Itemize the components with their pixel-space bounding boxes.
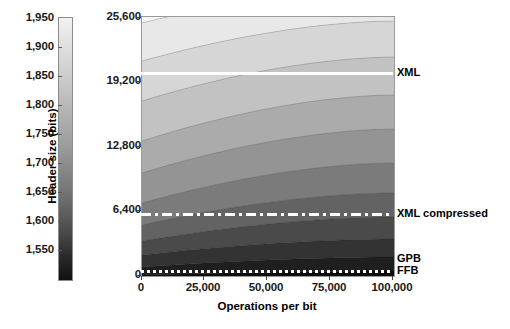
x-axis-tick-label: 0	[106, 281, 176, 293]
contour-chart-figure: 1,9501,9001,8501,8001,7501,7001,6501,600…	[0, 0, 510, 329]
reference-line-xml	[141, 72, 393, 75]
annotation-label-xml: XML	[397, 66, 420, 78]
x-axis-group: 025,00050,00075,000100,000	[0, 0, 510, 329]
x-axis-tick-mark	[266, 276, 267, 280]
x-axis-tick-label: 25,000	[168, 281, 238, 293]
reference-line-ffb	[141, 270, 393, 273]
x-axis-tick-mark	[203, 276, 204, 280]
x-axis-tick-mark	[392, 276, 393, 280]
x-axis-tick-label: 50,000	[231, 281, 301, 293]
reference-line-xml-compressed	[141, 213, 393, 216]
x-axis-tick-label: 100,000	[357, 281, 427, 293]
annotation-label-gpb: GPB	[397, 252, 421, 264]
x-axis-tick-label: 75,000	[294, 281, 364, 293]
x-axis-tick-mark	[329, 276, 330, 280]
annotation-label-ffb: FFB	[397, 264, 418, 276]
x-axis-tick-mark	[141, 276, 142, 280]
annotation-label-xml-compressed: XML compressed	[397, 207, 488, 219]
x-axis-title: Operations per bit	[141, 300, 393, 312]
